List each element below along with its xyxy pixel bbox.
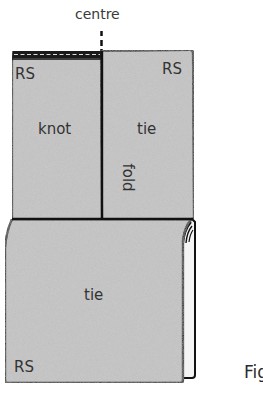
knot-label: knot <box>38 122 71 137</box>
tie-bottom-label: tie <box>84 288 103 303</box>
tie-folding-diagram: centre RS RS knot tie fold tie RS Fig <box>0 0 263 398</box>
tie-top-label: tie <box>137 122 156 137</box>
right-side-label-knot: RS <box>15 67 35 82</box>
right-side-label-bottom: RS <box>14 360 34 375</box>
diagram-drawing <box>0 0 263 398</box>
figure-caption: Fig <box>244 364 263 381</box>
centre-label: centre <box>75 7 120 21</box>
right-side-label-tie-top: RS <box>162 62 182 77</box>
fold-label: fold <box>120 163 135 191</box>
fold-underside <box>183 219 195 378</box>
